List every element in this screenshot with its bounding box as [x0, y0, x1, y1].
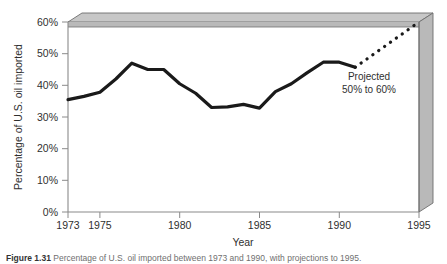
x-tick-label-1980: 1980	[168, 219, 192, 231]
y-tick-label-5: 50%	[37, 47, 58, 59]
x-axis-ticks	[68, 212, 419, 218]
x-tick-label-1973: 1973	[56, 219, 80, 231]
x-axis-tick-labels: 1973 1975 1980 1985 1990 1995	[56, 219, 431, 231]
figure-caption-label: Figure	[6, 253, 32, 263]
figure-caption: Figure 1.31 Percentage of U.S. oil impor…	[6, 253, 447, 264]
y-axis-tick-labels: 0% 10% 20% 30% 40% 50% 60%	[37, 16, 58, 218]
top-wall-face	[68, 13, 433, 22]
x-axis-title: Year	[232, 236, 254, 248]
figure-caption-text: Percentage of U.S. oil imported between …	[53, 253, 361, 263]
right-wall-face	[419, 13, 433, 212]
chart-3d-walls	[68, 13, 433, 212]
y-tick-label-3: 30%	[37, 111, 58, 123]
y-tick-label-6: 60%	[37, 16, 58, 28]
projection-annotation-line2: 50% to 60%	[342, 84, 396, 95]
x-tick-label-1975: 1975	[88, 219, 112, 231]
y-tick-label-2: 20%	[37, 142, 58, 154]
y-tick-label-1: 10%	[37, 174, 58, 186]
y-tick-label-4: 40%	[37, 79, 58, 91]
x-tick-label-1995: 1995	[407, 219, 431, 231]
y-axis-ticks	[62, 22, 68, 212]
chart-axes	[62, 22, 419, 218]
top-wall-band	[68, 22, 419, 27]
projection-annotation-line1: Projected	[348, 71, 390, 82]
x-tick-label-1985: 1985	[248, 219, 272, 231]
data-line-actual	[68, 62, 355, 108]
x-tick-label-1990: 1990	[328, 219, 352, 231]
figure-caption-number: 1.31	[34, 253, 51, 263]
y-axis-title: Percentage of U.S. oil imported	[12, 44, 24, 190]
projection-annotation: Projected 50% to 60%	[342, 71, 396, 95]
data-line-projected	[355, 22, 419, 67]
y-tick-label-0: 0%	[43, 206, 58, 218]
